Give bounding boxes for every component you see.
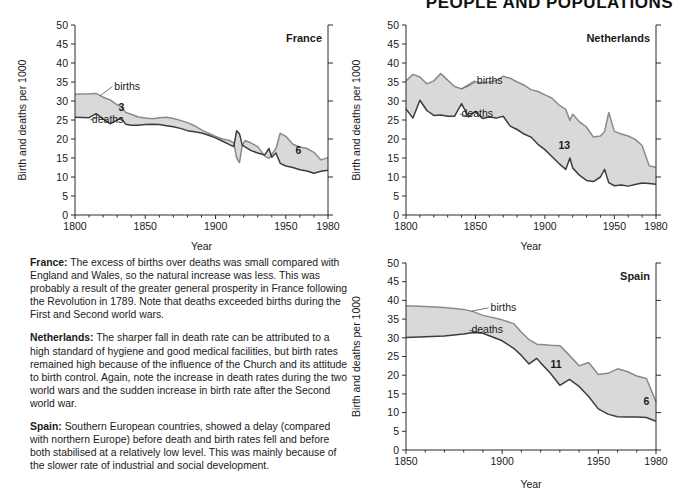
x-axis-title: Year: [191, 240, 213, 252]
country-title: Netherlands: [586, 32, 650, 44]
chart-svg-france: 0510152025303540455018001850190019501980…: [12, 12, 350, 252]
y-tick-label: 25: [56, 114, 68, 126]
x-tick-label: 1900: [204, 220, 228, 232]
y-axis-title: Birth and deaths per 1000: [16, 59, 28, 180]
series-label-births: births: [114, 80, 140, 92]
y-tick-label: 40: [387, 57, 399, 69]
y-tick-label: 25: [387, 114, 399, 126]
y-tick-label: 40: [56, 57, 68, 69]
y-tick-label: 35: [387, 313, 399, 325]
y-tick-label: 5: [393, 425, 399, 437]
chart-svg-netherlands: 0510152025303540455018001850190019501980…: [348, 12, 678, 252]
x-tick-label: 1800: [63, 220, 87, 232]
commentary-text-block: France: The excess of births over deaths…: [30, 256, 348, 472]
y-axis-title: Birth and deaths per 1000: [350, 296, 362, 417]
y-tick-label: 50: [387, 257, 399, 269]
y-tick-label: 20: [56, 133, 68, 145]
gap-annotation: 11: [550, 358, 561, 370]
y-tick-label: 50: [387, 19, 399, 31]
series-label-births: births: [477, 74, 503, 86]
note-netherlands-body: The sharper fall in death rate can be at…: [30, 332, 347, 408]
x-tick-label: 1850: [134, 220, 158, 232]
x-tick-label: 1800: [394, 220, 418, 232]
series-label-births: births: [491, 301, 517, 313]
note-spain: Spain: Southern European countries, show…: [30, 420, 348, 472]
gap-annotation: 13: [558, 139, 570, 151]
y-tick-label: 10: [56, 171, 68, 183]
y-tick-label: 45: [387, 275, 399, 287]
band-births-deaths: [406, 74, 656, 186]
note-spain-body: Southern European countries, showed a de…: [30, 421, 336, 471]
y-axis-title: Birth and deaths per 1000: [350, 59, 362, 180]
note-france: France: The excess of births over deaths…: [30, 256, 348, 321]
y-tick-label: 45: [387, 38, 399, 50]
note-spain-country: Spain:: [30, 421, 62, 432]
y-tick-label: 0: [393, 444, 399, 456]
gap-annotation: 3: [118, 101, 124, 113]
x-tick-label: 1980: [316, 220, 340, 232]
series-label-deaths: deaths: [92, 113, 124, 125]
x-tick-label: 1980: [644, 220, 668, 232]
series-label-deaths: deaths: [462, 107, 494, 119]
y-tick-label: 10: [387, 171, 399, 183]
y-tick-label: 20: [387, 133, 399, 145]
page-root: PEOPLE AND POPULATIONS 05101520253035404…: [0, 0, 683, 495]
leader-line-births: [100, 87, 112, 96]
gap-annotation: 6: [643, 395, 649, 407]
series-label-deaths: deaths: [471, 323, 503, 335]
y-tick-label: 40: [387, 294, 399, 306]
chart-france: 0510152025303540455018001850190019501980…: [12, 12, 350, 252]
y-tick-label: 30: [56, 95, 68, 107]
plot-area-netherlands: [406, 74, 656, 186]
note-france-country: France:: [30, 257, 68, 268]
y-tick-label: 30: [387, 332, 399, 344]
note-netherlands: Netherlands: The sharper fall in death r…: [30, 331, 348, 410]
x-tick-label: 1950: [274, 220, 298, 232]
x-tick-label: 1980: [644, 455, 668, 467]
y-tick-label: 10: [387, 406, 399, 418]
x-tick-label: 1850: [394, 455, 418, 467]
leader-line-births: [471, 308, 488, 311]
x-tick-label: 1950: [603, 220, 627, 232]
note-france-body: The excess of births over deaths was sma…: [30, 257, 347, 320]
y-tick-label: 15: [387, 152, 399, 164]
y-tick-label: 45: [56, 38, 68, 50]
y-tick-label: 5: [393, 190, 399, 202]
x-axis-title: Year: [520, 478, 542, 490]
y-tick-label: 30: [387, 95, 399, 107]
chart-netherlands: 0510152025303540455018001850190019501980…: [348, 12, 678, 252]
chart-svg-spain: 051015202530354045501850190019501980Year…: [348, 252, 678, 490]
x-tick-label: 1950: [587, 455, 611, 467]
note-netherlands-country: Netherlands:: [30, 332, 94, 343]
y-tick-label: 20: [387, 369, 399, 381]
y-tick-label: 0: [393, 209, 399, 221]
y-tick-label: 15: [56, 152, 68, 164]
y-tick-label: 0: [62, 209, 68, 221]
gap-annotation: 6: [296, 144, 302, 156]
chart-spain: 051015202530354045501850190019501980Year…: [348, 252, 678, 490]
x-tick-label: 1850: [464, 220, 488, 232]
country-title: Spain: [620, 270, 650, 282]
x-axis-title: Year: [520, 240, 542, 252]
y-tick-label: 25: [387, 350, 399, 362]
y-tick-label: 15: [387, 388, 399, 400]
plot-area-spain: [406, 306, 656, 422]
x-tick-label: 1900: [533, 220, 557, 232]
y-tick-label: 35: [387, 76, 399, 88]
country-title: France: [286, 32, 322, 44]
plot-area-france: [75, 93, 328, 173]
x-tick-label: 1900: [490, 455, 514, 467]
y-tick-label: 35: [56, 76, 68, 88]
y-tick-label: 5: [62, 190, 68, 202]
y-tick-label: 50: [56, 19, 68, 31]
